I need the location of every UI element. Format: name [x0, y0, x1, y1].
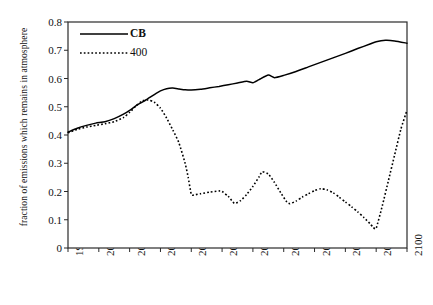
legend-label-cb: CB [130, 27, 146, 39]
plot-frame [68, 22, 407, 248]
plot-area [0, 0, 433, 305]
chart-root: fraction of emissions which remains in a… [0, 0, 433, 305]
legend-label-400: 400 [130, 46, 147, 58]
x-axis-ticks [68, 248, 407, 252]
